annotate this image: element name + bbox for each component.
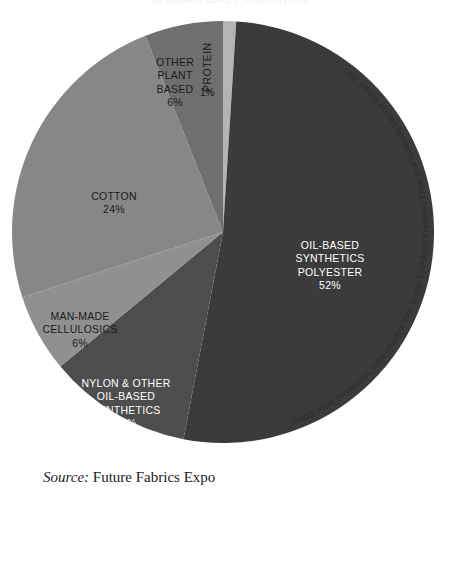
pie-chart-svg: Global Fibre Production, Data adapted fr…: [0, 0, 459, 470]
source-value: Future Fabrics Expo: [93, 469, 215, 485]
source-label: Source:: [43, 469, 89, 485]
pie-chart: Global Fibre Production, Data adapted fr…: [0, 0, 459, 470]
source-line: Source: Future Fabrics Expo: [43, 469, 215, 486]
page-root: GLOBAL FIBRE PRODUCTION Global Fibre Pro…: [0, 0, 459, 563]
pie-slice-group: [12, 21, 434, 443]
